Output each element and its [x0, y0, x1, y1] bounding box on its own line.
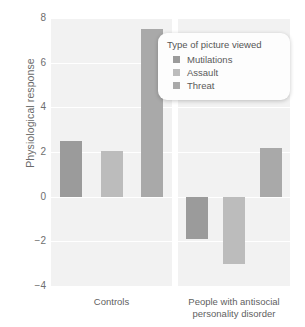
legend-swatch-icon	[173, 82, 180, 89]
legend-swatch-icon	[173, 69, 180, 76]
x-group-label-line: personality disorder	[175, 308, 293, 320]
bar-assault-controls	[101, 151, 123, 197]
legend-label: Threat	[187, 80, 214, 91]
y-axis-tick-neg4: −4	[22, 281, 46, 291]
y-axis-tick-4: 4	[22, 102, 46, 112]
y-axis-tick-labels: 86420−2−4	[18, 0, 46, 327]
x-group-label-line: People with antisocial	[175, 296, 293, 308]
y-axis-tick-neg2: −2	[22, 236, 46, 246]
physiological-response-bar-chart: Physiological response 86420−2−4 Type of…	[0, 0, 305, 327]
y-axis-tick-0: 0	[22, 192, 46, 202]
zero-line	[51, 197, 290, 198]
legend-label: Assault	[187, 67, 218, 78]
bar-mutilations-antisocial	[186, 197, 208, 239]
legend-entries: MutilationsAssaultThreat	[167, 54, 282, 91]
x-group-label-line: Controls	[51, 296, 172, 308]
legend-label: Mutilations	[187, 54, 232, 65]
y-axis-tick-8: 8	[22, 13, 46, 23]
legend-title: Type of picture viewed	[167, 39, 282, 50]
x-group-label-antisocial: People with antisocialpersonality disord…	[175, 296, 293, 320]
gridline	[51, 107, 290, 108]
legend-entry-threat[interactable]: Threat	[173, 80, 282, 91]
legend-swatch-icon	[173, 56, 180, 63]
bar-assault-antisocial	[223, 197, 245, 264]
y-axis-tick-2: 2	[22, 147, 46, 157]
gridline	[51, 286, 290, 287]
legend-entry-mutilations[interactable]: Mutilations	[173, 54, 282, 65]
gridline	[51, 18, 290, 19]
legend-entry-assault[interactable]: Assault	[173, 67, 282, 78]
x-group-label-controls: Controls	[51, 296, 172, 308]
legend: Type of picture viewed MutilationsAssaul…	[158, 33, 290, 100]
bar-threat-antisocial	[260, 148, 282, 197]
bar-mutilations-controls	[60, 141, 82, 197]
gridline	[51, 152, 290, 153]
gridline	[51, 241, 290, 242]
y-axis-tick-6: 6	[22, 58, 46, 68]
